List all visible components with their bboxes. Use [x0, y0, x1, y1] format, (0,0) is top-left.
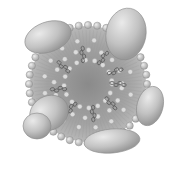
- lipoprotein-illustration: [0, 0, 178, 172]
